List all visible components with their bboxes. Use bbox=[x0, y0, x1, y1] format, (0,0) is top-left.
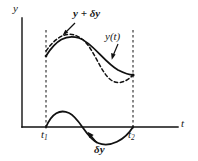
y-axis-label: y bbox=[13, 3, 18, 14]
t2-label-subscript: 2 bbox=[131, 133, 135, 142]
figure-canvas: y t y + δy y(t) t1 t2 δy bbox=[0, 0, 198, 161]
varied-curve-label: y + δy bbox=[73, 8, 100, 19]
t1-label: t1 bbox=[41, 129, 48, 141]
t1-label-subscript: 1 bbox=[44, 133, 48, 142]
arrow-to-varied-curve bbox=[63, 23, 76, 36]
arrow-to-base-curve bbox=[111, 44, 118, 60]
base-curve-label: y(t) bbox=[105, 31, 120, 42]
left-endpoint-dot bbox=[45, 55, 48, 58]
figure-vector-graphics bbox=[0, 0, 198, 161]
right-endpoint-dot bbox=[131, 73, 134, 76]
arrow-to-variation-curve bbox=[88, 132, 97, 143]
curve-y-of-t bbox=[46, 37, 133, 75]
t-axis-label: t bbox=[181, 118, 184, 129]
curve-delta-y bbox=[46, 112, 133, 145]
t2-label: t2 bbox=[128, 129, 135, 141]
axes-group bbox=[22, 18, 178, 127]
variation-curve-label: δy bbox=[94, 144, 105, 155]
